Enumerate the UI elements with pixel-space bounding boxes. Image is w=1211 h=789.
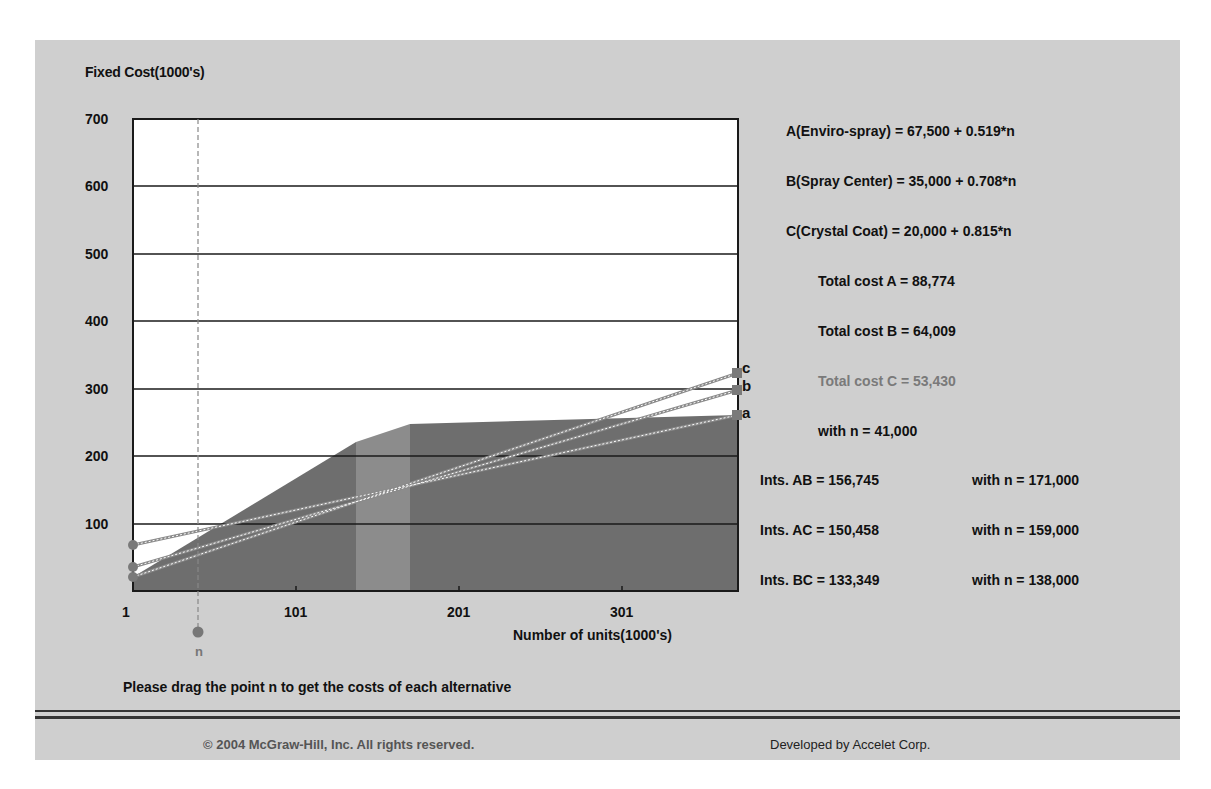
x-axis-title: Number of units(1000's) (513, 627, 672, 643)
intersection-ac-n: with n = 159,000 (972, 522, 1079, 538)
intersection-ac: Ints. AC = 150,458 (760, 522, 879, 538)
total-cost-a: Total cost A = 88,774 (818, 273, 955, 289)
footer-divider-thick (35, 716, 1180, 719)
series-label-b: b (742, 377, 751, 394)
equation-b: B(Spray Center) = 35,000 + 0.708*n (786, 173, 1016, 189)
total-cost-c: Total cost C = 53,430 (818, 373, 956, 389)
series-label-a: a (742, 404, 750, 421)
intersection-bc-n: with n = 138,000 (972, 572, 1079, 588)
total-cost-b: Total cost B = 64,009 (818, 323, 956, 339)
copyright-text: © 2004 McGraw-Hill, Inc. All rights rese… (203, 737, 474, 752)
equation-a: A(Enviro-spray) = 67,500 + 0.519*n (786, 123, 1015, 139)
drag-point-n (193, 627, 204, 638)
intersection-bc: Ints. BC = 133,349 (760, 572, 879, 588)
series-label-c: c (742, 359, 750, 376)
footer-divider (35, 710, 1180, 712)
intersection-ab: Ints. AB = 156,745 (760, 472, 879, 488)
x-tick: 301 (610, 604, 633, 620)
x-tick: 201 (447, 604, 470, 620)
x-tick: 101 (284, 604, 307, 620)
region-a (410, 415, 738, 591)
region-b (356, 424, 410, 591)
developer-credit: Developed by Accelet Corp. (770, 737, 930, 752)
breakeven-plot (0, 0, 1211, 789)
x-tick: 1 (122, 604, 130, 620)
instruction-text: Please drag the point n to get the costs… (123, 679, 511, 695)
equation-c: C(Crystal Coat) = 20,000 + 0.815*n (786, 223, 1012, 239)
drag-point-label[interactable]: n (195, 644, 203, 659)
current-n: with n = 41,000 (818, 423, 917, 439)
intersection-ab-n: with n = 171,000 (972, 472, 1079, 488)
